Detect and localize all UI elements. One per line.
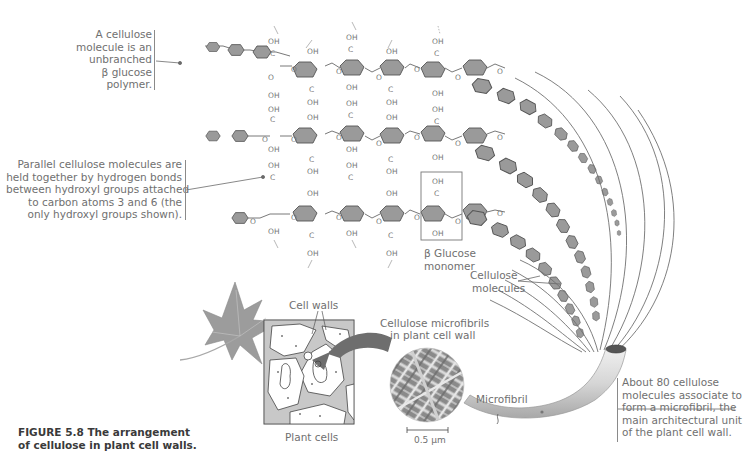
svg-text:C: C [388, 85, 393, 94]
callout-microfibril-bar [617, 378, 618, 442]
callout-microfibril-note: About 80 cellulose molecules associate t… [622, 376, 746, 439]
svg-text:O: O [291, 65, 297, 74]
svg-text:OH: OH [346, 229, 358, 238]
svg-text:O: O [455, 73, 461, 82]
chain-top-rings [206, 43, 271, 59]
svg-text:OH: OH [268, 105, 280, 114]
svg-text:C: C [388, 231, 393, 240]
svg-text:C: C [270, 173, 275, 182]
cellulose-figure: OHC OHOHC OHOHC OH OH COH OH COH OH COH … [0, 0, 746, 468]
svg-text:OH: OH [268, 145, 280, 154]
svg-text:OH: OH [307, 47, 319, 56]
svg-text:C: C [348, 45, 353, 54]
svg-text:O: O [268, 73, 274, 82]
callout-hydrogen-bonds: Parallel cellulose molecules are held to… [6, 158, 182, 221]
svg-text:O: O [291, 213, 297, 222]
svg-text:C: C [434, 49, 439, 58]
svg-text:O: O [250, 217, 256, 226]
svg-text:O: O [376, 73, 382, 82]
svg-text:OH: OH [307, 98, 319, 107]
svg-text:O: O [497, 67, 503, 76]
svg-text:OH: OH [346, 145, 358, 154]
callout-polymer: A cellulose molecule is an unbranched β … [60, 28, 152, 91]
svg-text:OH: OH [432, 37, 444, 46]
svg-text:C: C [270, 115, 275, 124]
svg-text:O: O [414, 133, 420, 142]
figure-caption: FIGURE 5.8 The arrangement of cellulose … [18, 426, 197, 452]
svg-text:OH: OH [346, 33, 358, 42]
svg-text:C: C [309, 231, 314, 240]
microfibril-tube [464, 345, 626, 424]
svg-text:C: C [309, 155, 314, 164]
svg-text:C: C [434, 189, 439, 198]
svg-text:OH: OH [346, 83, 358, 92]
plant-cells-label: Plant cells [285, 431, 338, 443]
svg-text:OH: OH [386, 47, 398, 56]
svg-text:OH: OH [307, 167, 319, 176]
svg-text:C: C [309, 85, 314, 94]
svg-text:OH: OH [346, 99, 358, 108]
microfibrils-label-line1: Cellulose microfibrils [380, 317, 489, 329]
svg-text:OH: OH [432, 153, 444, 162]
svg-text:O: O [291, 135, 297, 144]
svg-text:C: C [348, 173, 353, 182]
svg-text:OH: OH [268, 161, 280, 170]
microfibril-label: Microfibril [476, 393, 528, 405]
scale-bar-label: 0.5 µm [414, 435, 446, 445]
cell-walls-label: Cell walls [289, 299, 338, 311]
glucose-row-1 [280, 60, 505, 77]
svg-text:OH: OH [268, 91, 280, 100]
svg-text:OH: OH [307, 189, 319, 198]
svg-text:OH: OH [432, 177, 444, 186]
glucose-monomer-label-line1: β Glucose [424, 247, 476, 259]
callout-polymer-bar [154, 30, 155, 90]
svg-text:OH: OH [268, 37, 280, 46]
svg-text:O: O [455, 217, 461, 226]
svg-text:O: O [336, 67, 342, 76]
svg-text:O: O [497, 209, 503, 218]
svg-text:OH: OH [307, 249, 319, 258]
svg-text:OH: OH [386, 167, 398, 176]
svg-text:OH: OH [386, 189, 398, 198]
svg-text:OH: OH [307, 113, 319, 122]
svg-text:OH: OH [386, 113, 398, 122]
svg-text:O: O [262, 135, 268, 144]
svg-text:O: O [497, 133, 503, 142]
svg-text:OH: OH [386, 98, 398, 107]
glucose-row-3 [232, 204, 505, 223]
svg-text:O: O [376, 139, 382, 148]
svg-text:OH: OH [268, 227, 280, 236]
cellulose-molecules-label-line2: molecules [472, 282, 525, 294]
svg-text:OH: OH [432, 89, 444, 98]
cellulose-molecules-label-line1: Cellulose [470, 269, 518, 281]
microfibrils-label-line2: in plant cell wall [390, 329, 475, 341]
svg-text:C: C [348, 111, 353, 120]
svg-text:OH: OH [346, 161, 358, 170]
svg-text:O: O [376, 217, 382, 226]
svg-text:OH: OH [432, 105, 444, 114]
svg-text:OH: OH [386, 249, 398, 258]
micrograph-circle [388, 346, 466, 433]
svg-text:O: O [414, 213, 420, 222]
svg-text:OH: OH [432, 229, 444, 238]
glucose-monomer-label-line2: monomer [424, 260, 475, 272]
svg-text:C: C [434, 117, 439, 126]
callout-hydrogen-bonds-bar [185, 160, 186, 220]
plant-cells-illustration [264, 311, 354, 424]
svg-text:C: C [270, 49, 275, 58]
svg-text:O: O [455, 139, 461, 148]
svg-text:O: O [336, 213, 342, 222]
svg-text:O: O [336, 133, 342, 142]
svg-text:O: O [414, 65, 420, 74]
cellulose-molecule-lines [490, 72, 674, 352]
svg-text:C: C [388, 155, 393, 164]
